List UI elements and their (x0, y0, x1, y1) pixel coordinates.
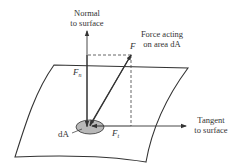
F-symbol: F (130, 41, 136, 51)
dA-symbol: dA (58, 129, 69, 139)
Ft-symbol: Ft (112, 128, 119, 139)
force-label: Force acting on area dA (134, 30, 190, 49)
area-element-dA (76, 120, 104, 134)
tangent-label-line2: to surface (186, 126, 236, 136)
Fn-symbol: Fn (73, 67, 82, 78)
tangent-label: Tangent to surface (186, 116, 236, 135)
normal-label-line2: to surface (62, 19, 112, 29)
surface-patch (15, 65, 188, 162)
diagram-canvas (0, 0, 240, 168)
force-on-surface-diagram: Normal to surface Force acting on area d… (0, 0, 240, 168)
normal-label: Normal to surface (62, 9, 112, 28)
force-label-line2: on area dA (134, 40, 190, 50)
